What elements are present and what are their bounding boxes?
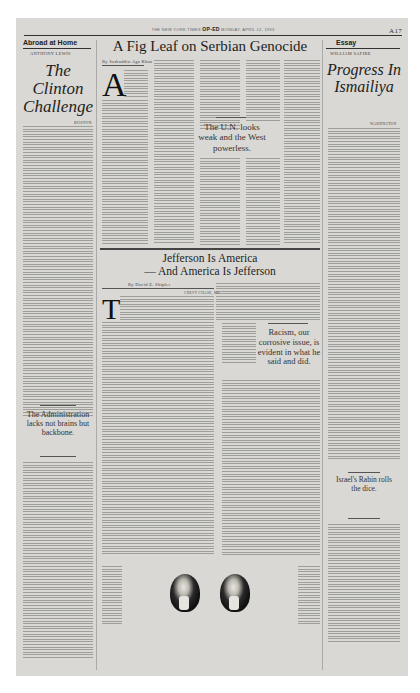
kicker-rule-right	[326, 48, 400, 49]
page-number: A17	[389, 27, 402, 35]
byline-rule-bottom	[102, 288, 214, 289]
author-right: WILLIAM SAFIRE	[330, 51, 371, 56]
pullquote-rule-center	[216, 117, 246, 118]
article-body-right-2	[328, 524, 400, 644]
pullquote-rule-top	[40, 405, 76, 406]
masthead: THE NEW YORK TIMES OP-ED MONDAY, APRIL 1…	[24, 26, 402, 36]
pullquote-rule-right-bottom	[348, 518, 380, 519]
column-divider-left	[96, 40, 97, 670]
dateline-right: WASHINGTON	[370, 122, 396, 126]
article-body-center-top-3b	[200, 158, 240, 245]
article-body-center-top-4a	[246, 60, 280, 122]
headline-line-2: — And America Is Jefferson	[100, 265, 320, 278]
article-body-center-top-4b	[246, 158, 280, 245]
jefferson-portrait-left	[170, 574, 200, 612]
article-body-center-bottom-1b	[102, 566, 122, 626]
article-body-center-bottom-2c	[298, 566, 320, 626]
byline-center-top: By Sadruddin Aga Khan	[102, 59, 152, 64]
pullquote-rule-jefferson	[268, 323, 308, 324]
article-body-right-1	[328, 128, 400, 460]
headline-right: Progress In Ismailiya	[324, 62, 404, 96]
headline-left: The Clinton Challenge	[22, 62, 94, 116]
pullquote-rule-bottom	[40, 456, 76, 457]
jefferson-portrait-right	[220, 574, 250, 612]
article-body-center-bottom-1	[102, 322, 214, 556]
column-kicker-right: Essay	[336, 39, 356, 46]
article-body-center-top-3a	[200, 60, 240, 130]
article-body-center-top-1a	[124, 70, 148, 98]
pull-quote-center-bottom: Racism, our corrosive issue, is evident …	[256, 328, 322, 367]
headline-center-bottom: Jefferson Is America — And America Is Je…	[100, 252, 320, 277]
dropcap-a: A	[102, 68, 127, 102]
pull-quote-left: The Administration lacks not brains but …	[26, 410, 90, 438]
column-divider-right	[322, 40, 323, 670]
dateline-left: BOSTON	[74, 120, 92, 125]
article-body-center-top-2	[154, 60, 194, 245]
masthead-date: MONDAY, APRIL 12, 1993	[221, 27, 274, 32]
article-body-center-bottom-1a	[120, 296, 214, 320]
masthead-paper: THE NEW YORK TIMES	[151, 27, 200, 32]
article-body-center-bottom-2b	[222, 323, 256, 363]
column-kicker-left: Abroad at Home	[23, 39, 77, 46]
dropcap-t: T	[102, 294, 120, 324]
article-body-center-bottom-2	[222, 380, 320, 556]
masthead-section: OP-ED	[202, 26, 219, 32]
article-separator	[100, 248, 320, 250]
newspaper-page: THE NEW YORK TIMES OP-ED MONDAY, APRIL 1…	[16, 18, 408, 676]
headline-center-top: A Fig Leaf on Serbian Genocide	[98, 38, 322, 55]
pullquote-rule-right-top	[348, 472, 380, 473]
pull-quote-center-top: The U.N. looks weak and the West powerle…	[196, 122, 268, 153]
article-body-center-top-1	[102, 100, 148, 245]
author-left: ANTHONY LEWIS	[30, 51, 71, 56]
byline-center-bottom: By David E. Shipler	[128, 282, 170, 287]
pull-quote-right: Israel's Rabin rolls the dice.	[334, 476, 394, 493]
article-body-left-2	[23, 462, 93, 660]
kicker-rule-left	[23, 48, 91, 49]
article-body-center-bottom-2a	[216, 283, 320, 321]
article-body-center-top-5	[284, 60, 320, 245]
headline-line-1: Jefferson Is America	[100, 252, 320, 265]
article-body-left-1	[23, 126, 93, 416]
